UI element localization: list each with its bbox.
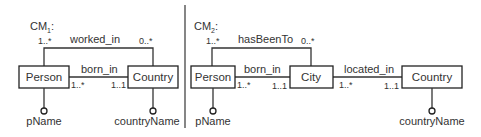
attribute-circle-icon xyxy=(41,108,47,114)
cardinality-hasbeento-city: 0..* xyxy=(301,36,315,46)
cardinality-worked-in-country: 0..* xyxy=(139,36,153,46)
entity-person-cm1[interactable]: Person xyxy=(19,66,69,88)
diagram-title-cm1: CM1: xyxy=(30,20,54,34)
cardinality-born-in-person: 1..* xyxy=(71,80,85,90)
cardinality-born-in-country: 1..1 xyxy=(111,80,126,90)
diagram-cm2: CM2: hasBeenTo 1..* 0..* born_in 1..* 1.… xyxy=(191,20,465,127)
entity-label: Person xyxy=(26,71,62,83)
attribute-countryname-cm1: countryName xyxy=(114,115,179,127)
cardinality-located-in-city: 1..* xyxy=(339,80,353,90)
er-diagram-canvas: CM1: worked_in 1..* 0..* born_in 1..* 1.… xyxy=(0,0,481,137)
entity-label: Country xyxy=(412,71,453,83)
entity-country-cm2[interactable]: Country xyxy=(402,66,462,88)
relationship-label-worked-in: worked_in xyxy=(69,33,120,45)
relationship-label-located-in: located_in xyxy=(344,63,394,75)
entity-label: City xyxy=(301,71,321,83)
entity-person-cm2[interactable]: Person xyxy=(191,66,235,88)
diagram-cm1: CM1: worked_in 1..* 0..* born_in 1..* 1.… xyxy=(19,20,180,127)
entity-country-cm1[interactable]: Country xyxy=(128,66,178,88)
attribute-countryname-cm2: countryName xyxy=(399,115,464,127)
relationship-label-born-in-cm2: born_in xyxy=(244,63,281,75)
cardinality-hasbeento-person: 1..* xyxy=(206,36,220,46)
relationship-label-born-in: born_in xyxy=(81,63,118,75)
cardinality-located-in-country: 1..1 xyxy=(384,81,399,91)
entity-city[interactable]: City xyxy=(290,66,333,88)
relationship-label-hasbeento: hasBeenTo xyxy=(238,33,293,45)
attribute-pname-cm1: pName xyxy=(26,115,61,127)
entity-label: Country xyxy=(133,71,174,83)
cardinality-worked-in-person: 1..* xyxy=(38,36,52,46)
diagram-title-cm2: CM2: xyxy=(194,20,218,34)
attribute-circle-icon xyxy=(150,108,156,114)
attribute-circle-icon xyxy=(210,108,216,114)
attribute-circle-icon xyxy=(429,108,435,114)
cardinality-born-in-person-cm2: 1..* xyxy=(237,80,251,90)
attribute-pname-cm2: pName xyxy=(195,115,230,127)
cardinality-born-in-city: 1..1 xyxy=(272,81,287,91)
entity-label: Person xyxy=(195,71,231,83)
